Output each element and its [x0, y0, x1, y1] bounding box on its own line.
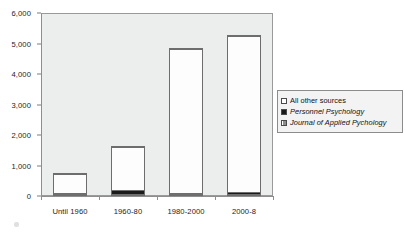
bar-stack[interactable]: [169, 48, 203, 196]
x-tick-mark: [41, 196, 42, 200]
x-tick-mark: [99, 196, 100, 200]
bar-segment[interactable]: [170, 49, 202, 193]
x-tick-mark: [215, 196, 216, 200]
legend-item[interactable]: Personnel Psychology: [281, 106, 399, 117]
x-axis-category-label: 1960-80: [99, 203, 157, 219]
bar-stack[interactable]: [227, 35, 261, 196]
legend-item[interactable]: All other sources: [281, 95, 399, 106]
bar-group: [41, 13, 99, 196]
y-tick-label: 6,000: [11, 9, 31, 18]
legend-label: Personnel Psychology: [290, 107, 364, 116]
bar-segment[interactable]: [170, 194, 202, 195]
bar-segment[interactable]: [54, 174, 86, 193]
y-tick-label: 0: [27, 192, 31, 201]
legend-label: Journal of Applied Pychology: [290, 118, 386, 127]
y-tick-label: 2,000: [11, 131, 31, 140]
y-tick-label: 4,000: [11, 70, 31, 79]
y-tick-label: 3,000: [11, 100, 31, 109]
bar-segment[interactable]: [228, 36, 260, 192]
y-axis: 01,0002,0003,0004,0005,0006,000: [0, 0, 36, 196]
x-axis-labels: Until 19601960-801980-20002000-8: [41, 203, 273, 219]
bar-stack[interactable]: [53, 173, 87, 196]
legend-label: All other sources: [290, 96, 346, 105]
scan-speck: [14, 222, 19, 227]
bar-group: [215, 13, 273, 196]
bar-group: [99, 13, 157, 196]
bar-segment[interactable]: [112, 147, 144, 191]
bar-segment[interactable]: [54, 194, 86, 195]
x-tick-mark: [273, 196, 274, 200]
legend-swatch-icon: [281, 120, 287, 126]
bar-stack[interactable]: [111, 146, 145, 196]
legend-item[interactable]: Journal of Applied Pychology: [281, 117, 399, 128]
legend-swatch-icon: [281, 109, 287, 115]
bar-group: [157, 13, 215, 196]
y-tick-label: 1,000: [11, 161, 31, 170]
bar-segment[interactable]: [228, 194, 260, 195]
x-tick-mark: [157, 196, 158, 200]
x-axis-category-label: 2000-8: [215, 203, 273, 219]
chart-legend: All other sourcesPersonnel PsychologyJou…: [277, 90, 403, 133]
bar-segment[interactable]: [112, 194, 144, 195]
x-axis-category-label: Until 1960: [41, 203, 99, 219]
x-axis-category-label: 1980-2000: [157, 203, 215, 219]
bars-layer: [41, 13, 273, 196]
y-tick-label: 5,000: [11, 39, 31, 48]
stacked-bar-chart: 01,0002,0003,0004,0005,0006,000 Until 19…: [0, 0, 405, 232]
legend-swatch-icon: [281, 98, 287, 104]
